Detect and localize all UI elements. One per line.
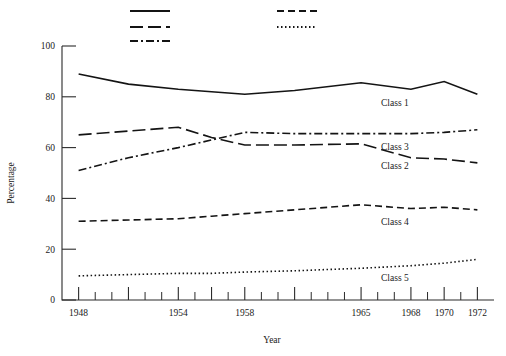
series-label-class-4: Class 4	[381, 217, 409, 227]
legend	[130, 11, 317, 41]
x-axis-title: Year	[263, 335, 281, 345]
series-line-class-1	[79, 74, 478, 94]
series-label-class-3: Class 3	[381, 142, 409, 152]
y-tick-label: 0	[50, 295, 55, 305]
series-label-class-1: Class 1	[381, 98, 409, 108]
x-tick-label: 1970	[435, 308, 454, 318]
y-tick-label: 60	[46, 143, 56, 153]
series-line-class-4	[79, 205, 478, 222]
figure-caption-strip	[0, 347, 506, 356]
x-tick-label: 1954	[169, 308, 188, 318]
y-tick-label: 20	[46, 245, 56, 255]
x-tick-label: 1972	[468, 308, 487, 318]
x-tick-label: 1948	[69, 308, 88, 318]
series-lines	[79, 74, 478, 276]
series-label-class-2: Class 2	[381, 161, 409, 171]
series-line-class-5	[79, 259, 478, 276]
x-tick-label: 1968	[401, 308, 420, 318]
y-tick-label: 40	[46, 194, 56, 204]
series-label-class-5: Class 5	[381, 273, 409, 283]
y-tick-label: 80	[46, 92, 56, 102]
y-axis-title: Percentage	[6, 162, 16, 204]
tick-labels: 0204060801001948195419581965196819701972	[41, 41, 487, 318]
x-tick-label: 1958	[235, 308, 254, 318]
x-tick-label: 1965	[352, 308, 371, 318]
series-line-class-3	[79, 130, 478, 171]
figure-container: 0204060801001948195419581965196819701972…	[0, 0, 506, 356]
line-chart: 0204060801001948195419581965196819701972…	[0, 0, 506, 356]
series-labels: Class 1Class 2Class 3Class 4Class 5	[381, 98, 409, 283]
y-tick-label: 100	[41, 41, 56, 51]
